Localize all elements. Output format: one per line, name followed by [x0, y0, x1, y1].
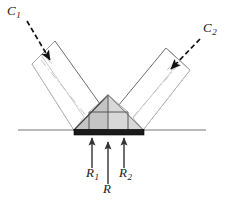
label-c2-text: C	[203, 20, 212, 35]
label-r1-text: R	[86, 165, 94, 180]
label-r2-text: R	[119, 165, 127, 180]
pointer-arrow-c2	[171, 39, 200, 69]
label-c2-sub: 2	[212, 27, 217, 37]
label-c1-text: C	[7, 3, 16, 18]
label-c1-sub: 1	[16, 10, 21, 20]
label-r2-sub: 2	[127, 172, 132, 182]
truss-joint-diagram: C1 C2 R1 R2 R	[0, 0, 232, 203]
diagram-canvas	[0, 0, 232, 203]
base-plate	[74, 130, 144, 136]
label-r1: R1	[86, 166, 99, 179]
label-c1: C1	[7, 4, 21, 17]
label-r2: R2	[119, 166, 132, 179]
label-c2: C2	[203, 21, 217, 34]
label-r1-sub: 1	[94, 172, 99, 182]
label-r-text: R	[103, 181, 111, 196]
label-r: R	[103, 182, 111, 195]
